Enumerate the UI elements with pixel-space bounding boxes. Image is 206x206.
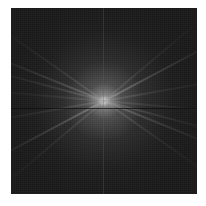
spectrum-image	[11, 8, 197, 194]
noise-texture	[11, 8, 197, 194]
